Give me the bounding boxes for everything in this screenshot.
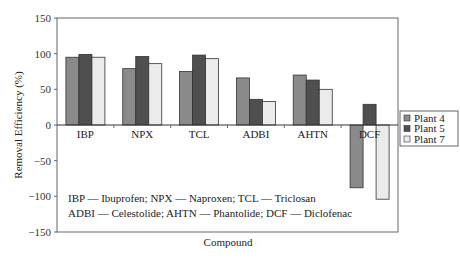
bar-npx-plant-5 bbox=[136, 57, 149, 125]
category-label: TCL bbox=[189, 128, 210, 140]
bar-npx-plant-4 bbox=[123, 69, 136, 125]
bar-adbi-plant-5 bbox=[249, 99, 262, 125]
y-tick-label: −150 bbox=[28, 226, 51, 238]
bar-ahtn-plant-4 bbox=[293, 75, 306, 125]
bar-tcl-plant-5 bbox=[193, 55, 206, 125]
category-label: DCF bbox=[359, 128, 380, 140]
y-axis-ticks: 150100500−50−100−150 bbox=[28, 12, 57, 238]
bar-ahtn-plant-5 bbox=[306, 80, 319, 125]
legend-swatch bbox=[404, 115, 410, 121]
x-axis-title: Compound bbox=[204, 236, 253, 248]
bar-dcf-plant-5 bbox=[363, 104, 376, 125]
bar-ibp-plant-5 bbox=[79, 54, 92, 125]
bar-ibp-plant-7 bbox=[92, 57, 105, 125]
y-axis-title-group: Removal Efficiency (%) bbox=[12, 71, 25, 179]
bar-ahtn-plant-7 bbox=[319, 89, 332, 125]
legend: Plant 4Plant 5Plant 7 bbox=[400, 111, 458, 146]
y-tick-label: 100 bbox=[35, 48, 52, 60]
legend-label: Plant 7 bbox=[414, 133, 445, 145]
y-tick-label: 0 bbox=[46, 119, 52, 131]
category-label: ADBI bbox=[242, 128, 269, 140]
abbreviation-note: IBP — Ibuprofen; NPX — Naproxen; TCL — T… bbox=[68, 192, 352, 219]
category-label: IBP bbox=[77, 128, 94, 140]
bar-chart: Removal Efficiency (%) 150100500−50−100−… bbox=[0, 0, 460, 260]
bar-tcl-plant-7 bbox=[206, 59, 219, 125]
category-label: AHTN bbox=[297, 128, 328, 140]
y-tick-label: 50 bbox=[40, 83, 52, 95]
bar-adbi-plant-4 bbox=[236, 78, 249, 125]
y-tick-label: −100 bbox=[28, 190, 51, 202]
y-tick-label: 150 bbox=[35, 12, 52, 24]
y-tick-label: −50 bbox=[34, 155, 52, 167]
note-line-1: IBP — Ibuprofen; NPX — Naproxen; TCL — T… bbox=[68, 192, 316, 204]
category-label: NPX bbox=[131, 128, 153, 140]
bar-tcl-plant-4 bbox=[180, 72, 193, 126]
bar-adbi-plant-7 bbox=[262, 101, 275, 125]
note-line-2: ADBI — Celestolide; AHTN — Phantolide; D… bbox=[68, 207, 352, 219]
bar-ibp-plant-4 bbox=[66, 57, 79, 125]
y-axis-title: Removal Efficiency (%) bbox=[12, 71, 25, 179]
legend-swatch bbox=[404, 136, 410, 142]
bar-npx-plant-7 bbox=[149, 64, 162, 125]
legend-swatch bbox=[404, 126, 410, 132]
category-labels: IBPNPXTCLADBIAHTNDCF bbox=[77, 128, 380, 140]
